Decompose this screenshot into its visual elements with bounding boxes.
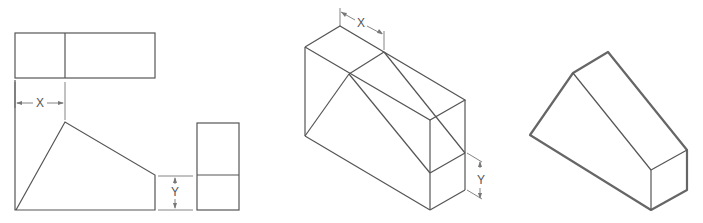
orthographic-views: X Y bbox=[15, 33, 239, 210]
x-dimension-iso: X bbox=[340, 8, 384, 50]
y-dimension-iso: Y bbox=[467, 153, 485, 199]
isometric-finished-view bbox=[530, 52, 687, 210]
y-label-iso: Y bbox=[477, 173, 485, 187]
drawing-canvas: X Y X bbox=[0, 0, 703, 223]
y-label: Y bbox=[171, 185, 179, 199]
x-dimension-ortho: X bbox=[15, 82, 65, 120]
x-label-iso: X bbox=[357, 16, 365, 30]
isometric-construction-view: X Y bbox=[305, 8, 485, 210]
x-label: X bbox=[36, 96, 44, 110]
y-dimension-ortho: Y bbox=[158, 176, 193, 210]
top-view bbox=[15, 33, 155, 78]
side-view bbox=[197, 123, 239, 210]
